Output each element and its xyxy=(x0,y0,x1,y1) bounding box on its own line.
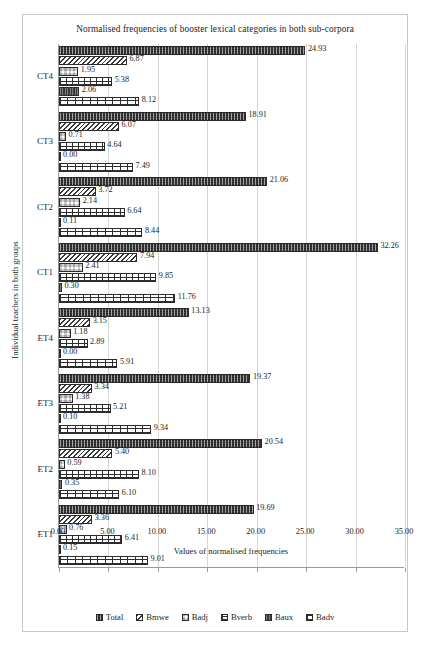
y-axis-category-label: ET3 xyxy=(38,398,54,408)
bar-et1-badv[interactable] xyxy=(59,556,148,565)
bar-ct4-badj[interactable] xyxy=(59,67,78,76)
bar-ct4-baux[interactable] xyxy=(59,87,79,96)
legend-swatch-icon xyxy=(306,614,313,621)
bar-et2-badj[interactable] xyxy=(59,460,65,469)
legend-label: Bmwe xyxy=(146,612,168,622)
legend-item-total[interactable]: Total xyxy=(96,612,124,622)
bar-value-label: 5.40 xyxy=(115,447,129,456)
chart-legend: TotalBmweBadjBverbBauxBadv xyxy=(22,612,408,622)
bar-group-et4: ET413.133.151.182.890.005.91 xyxy=(59,308,404,369)
bar-value-label: 1.38 xyxy=(75,392,89,401)
bar-et2-baux[interactable] xyxy=(59,480,62,489)
bar-ct2-baux[interactable] xyxy=(59,218,61,227)
bar-et3-baux[interactable] xyxy=(59,414,61,423)
plot-area: CT424.936.871.955.382.068.12CT318.916.07… xyxy=(58,44,404,568)
bar-value-label: 6.10 xyxy=(122,488,136,497)
bar-value-label: 6.87 xyxy=(129,54,143,63)
legend-item-bverb[interactable]: Bverb xyxy=(221,612,252,622)
bar-value-label: 8.44 xyxy=(145,226,159,235)
x-tick-mark xyxy=(158,568,159,572)
bar-group-ct3: CT318.916.070.714.640.007.49 xyxy=(59,112,404,173)
bar-et3-badj[interactable] xyxy=(59,394,73,403)
bar-et4-badj[interactable] xyxy=(59,329,71,338)
bar-et3-total[interactable] xyxy=(59,374,250,383)
bar-value-label: 24.93 xyxy=(308,44,326,53)
bar-et4-baux[interactable] xyxy=(59,349,61,358)
bar-value-label: 19.37 xyxy=(253,372,271,381)
bar-value-label: 20.54 xyxy=(265,437,283,446)
legend-swatch-icon xyxy=(96,614,103,621)
bar-value-label: 3.72 xyxy=(98,185,112,194)
legend-label: Badj xyxy=(192,612,208,622)
bar-value-label: 0.71 xyxy=(69,130,83,139)
bar-value-label: 1.95 xyxy=(81,65,95,74)
legend-item-badv[interactable]: Badv xyxy=(306,612,334,622)
bar-value-label: 7.94 xyxy=(140,251,154,260)
bar-group-ct2: CT221.063.722.146.640.118.44 xyxy=(59,177,404,238)
bar-ct1-baux[interactable] xyxy=(59,283,62,292)
bar-ct3-baux[interactable] xyxy=(59,152,61,161)
legend-swatch-icon xyxy=(136,614,143,621)
bar-value-label: 3.36 xyxy=(95,513,109,522)
bar-value-label: 32.26 xyxy=(380,241,398,250)
bar-value-label: 21.06 xyxy=(270,175,288,184)
bar-et1-total[interactable] xyxy=(59,505,254,514)
x-tick-label: 5.00 xyxy=(100,527,115,536)
bar-value-label: 4.64 xyxy=(107,140,121,149)
bar-value-label: 0.10 xyxy=(63,412,77,421)
bar-ct1-badv[interactable] xyxy=(59,294,175,303)
bar-value-label: 0.59 xyxy=(67,458,81,467)
bar-value-label: 3.15 xyxy=(93,316,107,325)
bar-value-label: 5.38 xyxy=(115,75,129,84)
x-tick-mark xyxy=(306,568,307,572)
bar-ct4-badv[interactable] xyxy=(59,97,139,106)
bar-ct3-total[interactable] xyxy=(59,112,246,121)
bar-ct4-total[interactable] xyxy=(59,46,305,55)
bar-value-label: 2.41 xyxy=(85,261,99,270)
bar-group-et2: ET220.545.400.598.100.356.10 xyxy=(59,439,404,500)
bar-value-label: 6.41 xyxy=(125,533,139,542)
x-tick-label: 25.00 xyxy=(296,527,315,536)
y-axis-label-wrap: Individual teachers in both groups xyxy=(12,150,26,430)
legend-item-bmwe[interactable]: Bmwe xyxy=(136,612,168,622)
bar-et2-total[interactable] xyxy=(59,439,262,448)
bar-ct3-badv[interactable] xyxy=(59,163,133,172)
bar-group-ct1: CT132.267.942.419.850.3011.76 xyxy=(59,243,404,304)
legend-label: Bverb xyxy=(231,612,252,622)
bar-ct2-badv[interactable] xyxy=(59,228,142,237)
y-axis-category-label: CT3 xyxy=(37,136,53,146)
bar-value-label: 8.12 xyxy=(142,95,156,104)
bar-value-label: 0.35 xyxy=(65,478,79,487)
bar-ct2-total[interactable] xyxy=(59,177,267,186)
bar-group-ct4: CT424.936.871.955.382.068.12 xyxy=(59,46,404,107)
x-tick-label: 10.00 xyxy=(148,527,167,536)
bar-ct1-badj[interactable] xyxy=(59,263,83,272)
y-axis-category-label: CT1 xyxy=(37,267,53,277)
bar-ct3-badj[interactable] xyxy=(59,132,66,141)
bar-et2-badv[interactable] xyxy=(59,490,119,499)
x-tick-mark xyxy=(405,568,406,572)
y-axis-category-label: CT4 xyxy=(37,71,53,81)
bar-value-label: 5.21 xyxy=(113,402,127,411)
bar-et4-badv[interactable] xyxy=(59,359,117,368)
legend-item-badj[interactable]: Badj xyxy=(182,612,208,622)
bar-ct1-total[interactable] xyxy=(59,243,378,252)
bar-value-label: 2.89 xyxy=(90,337,104,346)
x-tick-mark xyxy=(108,568,109,572)
legend-item-baux[interactable]: Baux xyxy=(265,612,293,622)
legend-swatch-icon xyxy=(221,614,228,621)
legend-swatch-icon xyxy=(182,614,189,621)
bar-value-label: 0.11 xyxy=(63,216,77,225)
bar-value-label: 9.85 xyxy=(159,271,173,280)
bar-et3-badv[interactable] xyxy=(59,425,151,434)
bar-value-label: 0.00 xyxy=(63,347,77,356)
bar-value-label: 11.76 xyxy=(178,292,196,301)
y-axis-category-label: ET2 xyxy=(38,464,54,474)
bar-et4-total[interactable] xyxy=(59,308,189,317)
legend-label: Badv xyxy=(316,612,334,622)
bar-value-label: 3.34 xyxy=(95,382,109,391)
y-axis-category-label: CT2 xyxy=(37,202,53,212)
bar-value-label: 0.76 xyxy=(69,523,83,532)
bar-ct2-badj[interactable] xyxy=(59,198,80,207)
bar-value-label: 8.10 xyxy=(142,468,156,477)
